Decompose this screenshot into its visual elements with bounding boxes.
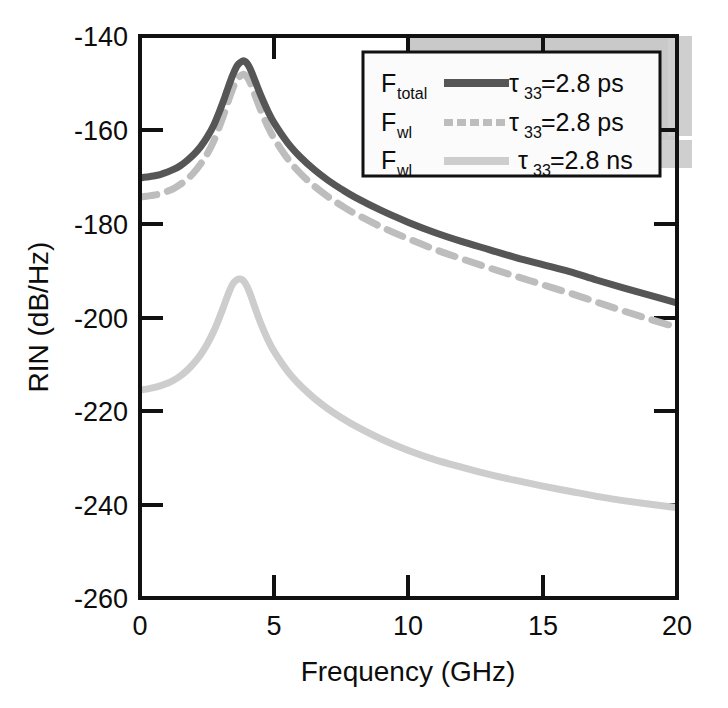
legend-value: =2.8 ns bbox=[550, 146, 633, 174]
y-tick-label: -160 bbox=[74, 116, 128, 146]
x-tick-label: 20 bbox=[662, 611, 692, 641]
legend-tau: τ bbox=[509, 108, 519, 136]
figure-container: -140 -160 -180 -200 -220 -240 -260 0 5 1… bbox=[0, 0, 728, 708]
legend-symbol: F bbox=[381, 69, 396, 97]
legend-tau: τ bbox=[518, 146, 528, 174]
legend-tau-subscript: 33 bbox=[524, 124, 542, 141]
y-tick-label: -260 bbox=[74, 584, 128, 614]
legend-swatch-solid-dark bbox=[444, 79, 509, 87]
y-tick-labels: -140 -160 -180 -200 -220 -240 -260 bbox=[74, 22, 128, 614]
legend-symbol-subscript: wl bbox=[396, 124, 412, 141]
legend-value: =2.8 ps bbox=[541, 108, 624, 136]
y-axis-title: RIN (dB/Hz) bbox=[23, 242, 54, 393]
legend-symbol: F bbox=[381, 108, 396, 136]
legend-tau: τ bbox=[509, 69, 519, 97]
x-tick-label: 10 bbox=[393, 611, 423, 641]
legend-tau-subscript: 33 bbox=[524, 85, 542, 102]
x-tick-label: 5 bbox=[266, 611, 281, 641]
legend-swatch-solid-light bbox=[444, 157, 509, 165]
legend-tau-subscript: 33 bbox=[533, 162, 551, 179]
y-tick-label: -240 bbox=[74, 491, 128, 521]
y-tick-label: -180 bbox=[74, 210, 128, 240]
legend: F total τ 33 =2.8 ps F wl τ 33 bbox=[363, 52, 660, 179]
y-tick-label: -200 bbox=[74, 304, 128, 334]
legend-value: =2.8 ps bbox=[541, 69, 624, 97]
x-axis-title: Frequency (GHz) bbox=[301, 656, 516, 687]
legend-symbol-subscript: total bbox=[397, 85, 427, 102]
x-tick-label: 0 bbox=[132, 611, 147, 641]
series-line-fwl-ns bbox=[140, 279, 677, 508]
legend-symbol: F bbox=[381, 146, 396, 174]
y-tick-label: -220 bbox=[74, 397, 128, 427]
legend-symbol-subscript: wl bbox=[396, 162, 412, 179]
rin-vs-frequency-chart: -140 -160 -180 -200 -220 -240 -260 0 5 1… bbox=[0, 0, 728, 708]
x-tick-label: 15 bbox=[528, 611, 558, 641]
x-tick-labels: 0 5 10 15 20 bbox=[132, 611, 692, 641]
y-tick-label: -140 bbox=[74, 22, 128, 52]
